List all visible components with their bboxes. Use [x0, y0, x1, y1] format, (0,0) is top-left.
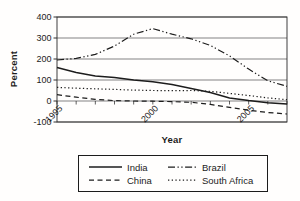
legend-item-south-africa: South Africa	[167, 175, 267, 186]
legend-item-brazil: Brazil	[167, 162, 267, 173]
legend-label-china: China	[127, 175, 152, 186]
legend-label-south-africa: South Africa	[202, 175, 253, 186]
svg-text:2000: 2000	[139, 103, 160, 124]
svg-text:100: 100	[36, 75, 51, 85]
brazil-line-sample-icon	[167, 162, 198, 172]
legend: India Brazil China South Africa	[78, 155, 268, 192]
legend-label-brazil: Brazil	[202, 162, 226, 173]
svg-text:0: 0	[46, 96, 51, 106]
india-line-sample-icon	[88, 162, 123, 172]
svg-text:1995: 1995	[43, 103, 64, 124]
svg-text:200: 200	[36, 54, 51, 64]
line-chart-plot: 4003002001000-100199520002005	[0, 0, 300, 152]
svg-text:400: 400	[36, 12, 51, 22]
svg-text:2005: 2005	[235, 103, 256, 124]
svg-text:300: 300	[36, 33, 51, 43]
south-africa-line-sample-icon	[167, 175, 198, 185]
legend-item-china: China	[79, 175, 167, 186]
china-line-sample-icon	[88, 175, 123, 185]
legend-item-india: India	[79, 162, 167, 173]
x-axis-title: Year	[162, 134, 183, 145]
chart-figure: Percent 4003002001000-100199520002005 Ye…	[0, 0, 300, 201]
legend-label-india: India	[127, 162, 148, 173]
